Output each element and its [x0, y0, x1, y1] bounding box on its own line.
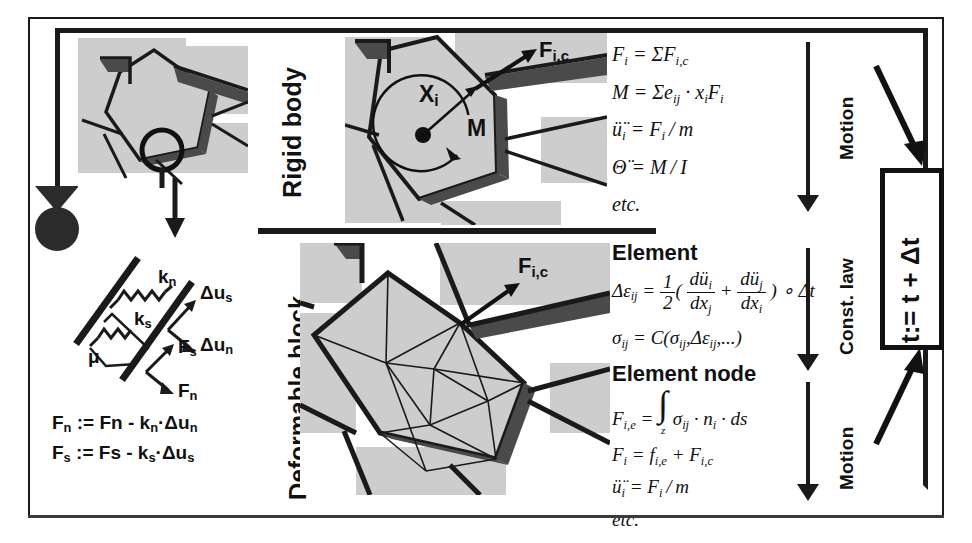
motion-top-label: Motion [836, 97, 858, 160]
timestep-box: t:= t + Δt [880, 168, 944, 350]
deformable-to-timestep-arrow [870, 348, 942, 464]
rigid-body-equations: Fi = ΣFi,c M = Σeij · xiFi ü̈i = Fi / m … [612, 36, 724, 224]
shear-stiffness-sub: s [145, 316, 152, 331]
timestep-label: t:= t + Δt [895, 238, 926, 343]
rigid-body-section-label: Rigid body [278, 67, 307, 198]
normal-force-update-equation: Fn := Fn - kn·Δun [52, 408, 198, 438]
shear-force-sub: s [190, 344, 197, 359]
normal-force-sub: n [190, 388, 198, 403]
contact-detection-illustration [78, 38, 248, 188]
contact-down-arrow [160, 178, 190, 244]
bottom-rule [28, 515, 944, 518]
shear-stiffness-label: ks [134, 308, 152, 331]
const-law-label: Const. law [836, 258, 858, 355]
normal-force-label: Fn [178, 380, 198, 403]
rb-eq-etc: etc. [612, 186, 724, 224]
deform-contact-force-sub: i,c [531, 263, 548, 280]
element-heading: Element [612, 240, 815, 266]
rb-eq-accel: ü̈i = Fi / m [612, 111, 724, 149]
node-eq-elemforce: Fi,e = ∫z σij · ni · ds [612, 392, 815, 436]
friction-label: μ [88, 346, 100, 368]
rb-eq-angaccel: Θ̈ = M / I [612, 149, 724, 187]
node-eq-totalforce: Fi = fi,e + Fi,c [612, 444, 815, 469]
contact-force-update-equations: Fn := Fn - kn·Δun Fs := Fs - ks·Δus [52, 408, 198, 468]
loop-start-node [35, 207, 79, 251]
shear-disp-sub: s [225, 290, 232, 305]
motion-arrow-bottom [806, 382, 810, 486]
shear-force-label: Fs [178, 336, 197, 359]
normal-stiffness-label: kn [158, 266, 176, 289]
node-eq-accel: ü̈i = Fi / m [612, 476, 815, 501]
rb-eq-force: Fi = ΣFi,c [612, 36, 724, 74]
rb-eq-moment: M = Σeij · xiFi [612, 74, 724, 112]
normal-disp-sub: n [225, 342, 233, 357]
centroid-label: Xi [419, 81, 439, 110]
feedback-loop-left-segment [55, 28, 60, 188]
element-node-heading: Element node [612, 361, 815, 387]
contact-spring-model-illustration: kn ks μ Δus Δun Fs Fn [60, 252, 260, 402]
moment-label: M [467, 115, 486, 142]
shear-displacement-label: Δus [200, 282, 232, 305]
deformable-block-illustration: Fi,c [300, 243, 610, 495]
rigid-contact-force-label: Fi,c [539, 37, 569, 64]
dem-cycle-diagram: kn ks μ Δus Δun Fs Fn Fn := Fn - kn·Δun … [0, 0, 972, 543]
const-law-arrow [806, 248, 810, 356]
el-eq-stress: σij = C(σij,Δεij,...) [612, 327, 815, 352]
el-eq-strain: Δεij = 12( düidxj + düjdxi ) ∘ Δt [612, 269, 815, 315]
section-divider [258, 228, 656, 234]
motion-bottom-label: Motion [836, 427, 858, 490]
node-eq-etc: etc. [612, 509, 815, 531]
rigid-contact-force-sub: i,c [552, 47, 569, 64]
rigid-body-illustration: Xi M Fi,c [345, 33, 607, 225]
centroid-sub: i [434, 92, 438, 109]
deformable-equations: Element Δεij = 12( düidxj + düjdxi ) ∘ Δ… [612, 240, 815, 531]
motion-arrow-top [806, 42, 810, 197]
rigid-to-timestep-arrow [872, 62, 944, 178]
deform-contact-force-label: Fi,c [518, 253, 548, 280]
normal-displacement-label: Δun [200, 334, 233, 357]
shear-force-update-equation: Fs := Fs - ks·Δus [52, 438, 198, 468]
normal-stiffness-sub: n [169, 274, 177, 289]
